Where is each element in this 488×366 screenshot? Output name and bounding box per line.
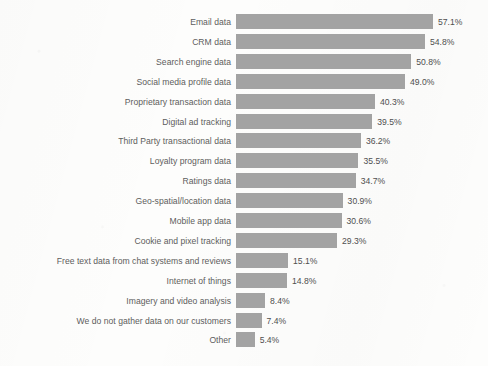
value-label: 39.5% <box>377 114 401 130</box>
value-label: 15.1% <box>293 253 317 269</box>
bar <box>236 54 411 69</box>
value-label: 5.4% <box>260 332 280 348</box>
bar-row: Imagery and video analysis8.4% <box>0 293 488 309</box>
plot-area: Email data57.1%CRM data54.8%Search engin… <box>0 0 488 366</box>
bar <box>236 233 337 248</box>
value-label: 7.4% <box>267 313 287 329</box>
bar <box>236 313 262 328</box>
bar-row: Email data57.1% <box>0 14 488 30</box>
bar-row: Mobile app data30.6% <box>0 213 488 229</box>
bar-row: CRM data54.8% <box>0 34 488 50</box>
bar-row: Free text data from chat systems and rev… <box>0 253 488 269</box>
bar-row: Digital ad tracking39.5% <box>0 114 488 130</box>
bar-row: Search engine data50.8% <box>0 54 488 70</box>
bar-row: Geo-spatial/location data30.9% <box>0 193 488 209</box>
category-label: Proprietary transaction data <box>125 94 231 110</box>
category-label: Search engine data <box>156 54 231 70</box>
bar-row: Ratings data34.7% <box>0 173 488 189</box>
value-label: 40.3% <box>380 94 404 110</box>
bar <box>236 114 372 129</box>
category-label: Imagery and video analysis <box>126 293 231 309</box>
bar <box>236 133 361 148</box>
value-label: 8.4% <box>270 293 290 309</box>
value-label: 30.6% <box>347 213 371 229</box>
bar <box>236 293 265 308</box>
bar-row: Proprietary transaction data40.3% <box>0 94 488 110</box>
bar <box>236 193 343 208</box>
category-label: Cookie and pixel tracking <box>134 233 231 249</box>
value-label: 50.8% <box>416 54 440 70</box>
bar <box>236 173 356 188</box>
category-label: Digital ad tracking <box>162 114 231 130</box>
value-label: 30.9% <box>348 193 372 209</box>
value-label: 36.2% <box>366 133 390 149</box>
bar <box>236 153 358 168</box>
bar-chart: Email data57.1%CRM data54.8%Search engin… <box>0 0 488 366</box>
value-label: 34.7% <box>361 173 385 189</box>
category-label: CRM data <box>192 34 231 50</box>
category-label: Other <box>209 332 231 348</box>
bar <box>236 14 433 29</box>
bar <box>236 74 405 89</box>
value-label: 57.1% <box>438 14 462 30</box>
value-label: 29.3% <box>342 233 366 249</box>
category-label: Third Party transactional data <box>118 133 231 149</box>
bar <box>236 34 425 49</box>
category-label: Free text data from chat systems and rev… <box>57 253 231 269</box>
value-label: 14.8% <box>292 273 316 289</box>
value-label: 54.8% <box>430 34 454 50</box>
bar-row: Other5.4% <box>0 332 488 348</box>
bar <box>236 253 288 268</box>
bar-row: Internet of things14.8% <box>0 273 488 289</box>
bar-row: We do not gather data on our customers7.… <box>0 313 488 329</box>
category-label: Internet of things <box>167 273 231 289</box>
bar-row: Third Party transactional data36.2% <box>0 133 488 149</box>
bar <box>236 273 287 288</box>
category-label: Ratings data <box>183 173 232 189</box>
category-label: Loyalty program data <box>150 153 231 169</box>
bar-row: Loyalty program data35.5% <box>0 153 488 169</box>
value-label: 35.5% <box>363 153 387 169</box>
bar <box>236 332 255 347</box>
category-label: Geo-spatial/location data <box>135 193 231 209</box>
bar-row: Social media profile data49.0% <box>0 74 488 90</box>
bar <box>236 94 375 109</box>
value-label: 49.0% <box>410 74 434 90</box>
category-label: Social media profile data <box>136 74 231 90</box>
bar-row: Cookie and pixel tracking29.3% <box>0 233 488 249</box>
category-label: Email data <box>190 14 231 30</box>
bar <box>236 213 342 228</box>
category-label: We do not gather data on our customers <box>77 313 231 329</box>
category-label: Mobile app data <box>170 213 231 229</box>
